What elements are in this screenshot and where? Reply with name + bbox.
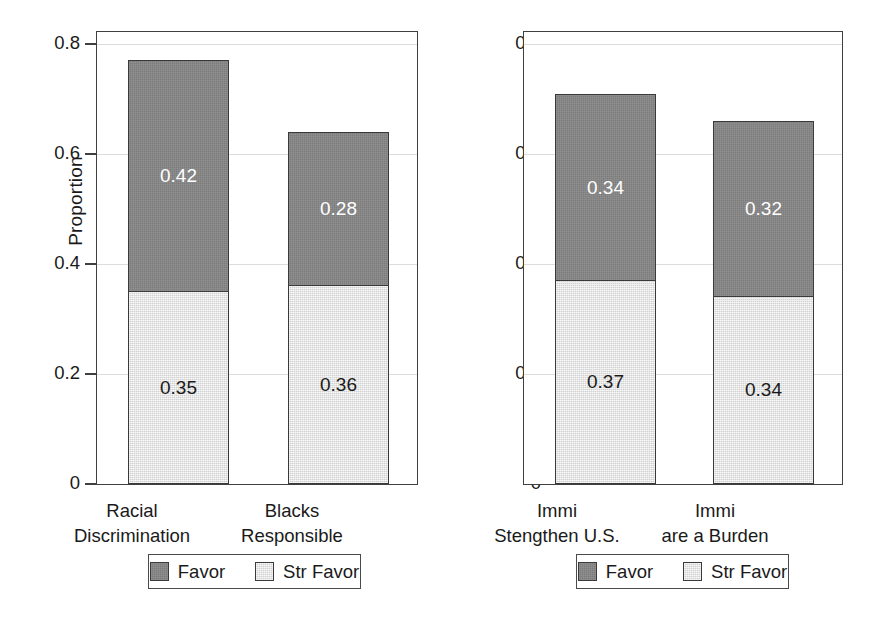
category-label-immi-are-a-burden: Immi are a Burden: [637, 498, 793, 548]
bar-segment-favor[interactable]: 0.34: [555, 94, 656, 281]
category-label-line2: Discrimination: [57, 523, 207, 548]
chart-panel-right: Proportion 0.8 0.6 0.4 0.2 0: [434, 0, 868, 617]
legend-swatch-favor-icon: [150, 562, 169, 581]
bar-value-str-favor: 0.35: [129, 377, 228, 399]
legend-swatch-favor-icon: [578, 562, 597, 581]
bar-immi-stengthen-us[interactable]: 0.34 0.37: [555, 94, 656, 484]
category-label-line2: Responsible: [217, 523, 367, 548]
bar-segment-str-favor[interactable]: 0.34: [713, 296, 814, 484]
legend-entry-favor[interactable]: Favor: [578, 561, 653, 583]
bar-segment-str-favor[interactable]: 0.35: [128, 291, 229, 484]
legend-entry-str-favor[interactable]: Str Favor: [683, 561, 787, 583]
bar-segment-favor[interactable]: 0.32: [713, 121, 814, 297]
bar-segment-str-favor[interactable]: 0.37: [555, 280, 656, 484]
bar-value-favor: 0.34: [556, 177, 655, 199]
y-tick-label-0: 0: [18, 472, 80, 494]
y-tick-label-0.6: 0.6: [18, 142, 80, 164]
legend-swatch-str-favor-icon: [255, 562, 274, 581]
legend-label-favor: Favor: [606, 561, 653, 583]
gridline-0.8: [524, 44, 842, 45]
category-label-line1: Blacks: [265, 500, 320, 521]
y-tick-label-0.2: 0.2: [18, 362, 80, 384]
category-label-line1: Racial: [106, 500, 157, 521]
stacked-bar-chart-figure: Proportion 0.8 0.6 0.4 0.2 0: [0, 0, 869, 617]
y-tick-mark-0.4: [85, 263, 96, 265]
y-tick-label-0.4: 0.4: [18, 252, 80, 274]
bar-value-str-favor: 0.36: [289, 374, 388, 396]
bar-segment-favor[interactable]: 0.28: [288, 132, 389, 286]
legend-swatch-str-favor-icon: [683, 562, 702, 581]
legend-label-str-favor: Str Favor: [283, 561, 359, 583]
legend-left: Favor Str Favor: [148, 554, 361, 589]
category-label-racial-discrimination: Racial Discrimination: [57, 498, 207, 548]
y-tick-mark-0.6: [85, 153, 96, 155]
category-label-line2: Stengthen U.S.: [479, 523, 635, 548]
bar-blacks-responsible[interactable]: 0.28 0.36: [288, 132, 389, 484]
y-tick-label-0.8: 0.8: [18, 32, 80, 54]
legend-right: Favor Str Favor: [576, 554, 789, 589]
legend-entry-str-favor[interactable]: Str Favor: [255, 561, 359, 583]
chart-panel-left: Proportion 0.8 0.6 0.4 0.2 0: [0, 0, 434, 617]
gridline-0.8: [97, 44, 417, 45]
category-label-line1: Immi: [537, 500, 577, 521]
bar-racial-discrimination[interactable]: 0.42 0.35: [128, 60, 229, 484]
category-label-immi-stengthen-us: Immi Stengthen U.S.: [479, 498, 635, 548]
legend-label-favor: Favor: [178, 561, 225, 583]
y-tick-mark-0: [85, 483, 96, 485]
bar-value-favor: 0.28: [289, 198, 388, 220]
bar-value-favor: 0.32: [714, 198, 813, 220]
y-tick-mark-0.2: [85, 373, 96, 375]
legend-label-str-favor: Str Favor: [711, 561, 787, 583]
bar-segment-favor[interactable]: 0.42: [128, 60, 229, 292]
category-label-line1: Immi: [695, 500, 735, 521]
plot-area-left: 0.42 0.35 0.28 0.36: [96, 31, 418, 485]
category-label-line2: are a Burden: [637, 523, 793, 548]
plot-area-right: 0.34 0.37 0.32 0.34: [523, 31, 843, 485]
category-label-blacks-responsible: Blacks Responsible: [217, 498, 367, 548]
bar-value-favor: 0.42: [129, 165, 228, 187]
y-tick-mark-0.8: [85, 43, 96, 45]
legend-entry-favor[interactable]: Favor: [150, 561, 225, 583]
bar-immi-are-a-burden[interactable]: 0.32 0.34: [713, 121, 814, 484]
bar-segment-str-favor[interactable]: 0.36: [288, 285, 389, 484]
bar-value-str-favor: 0.37: [556, 371, 655, 393]
bar-value-str-favor: 0.34: [714, 379, 813, 401]
